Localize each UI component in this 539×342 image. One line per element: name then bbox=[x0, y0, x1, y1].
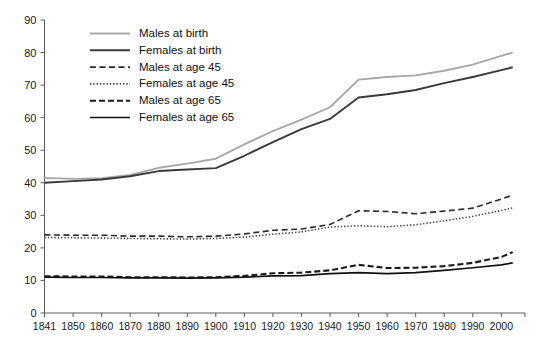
x-axis-tick-label: 1860 bbox=[90, 320, 114, 332]
life-expectancy-line-chart: 0102030405060708090 18411850186018701880… bbox=[0, 0, 539, 342]
legend-item-females-at-birth[interactable]: Females at birth bbox=[90, 44, 221, 56]
x-axis-tick-label: 1980 bbox=[433, 320, 457, 332]
y-axis-tick-label: 30 bbox=[24, 209, 36, 221]
x-axis-tick-label: 1950 bbox=[347, 320, 371, 332]
x-axis-tick-label: 1960 bbox=[375, 320, 399, 332]
legend-item-females-at-age-65[interactable]: Females at age 65 bbox=[90, 111, 234, 123]
x-axis-tick-label: 1970 bbox=[404, 320, 428, 332]
y-axis-tick-label: 70 bbox=[24, 79, 36, 91]
series-line-females-at-age-45 bbox=[45, 208, 513, 239]
x-axis-tick-label: 1990 bbox=[461, 320, 485, 332]
x-axis-tick-label: 1900 bbox=[204, 320, 228, 332]
x-axis-tick-label: 1930 bbox=[290, 320, 314, 332]
x-axis-tick-label: 1910 bbox=[233, 320, 257, 332]
y-axis-tick-label: 90 bbox=[24, 14, 36, 26]
legend-item-label: Males at age 65 bbox=[139, 94, 221, 106]
series-line-males-at-birth bbox=[45, 53, 513, 179]
y-axis-tick-label: 60 bbox=[24, 112, 36, 124]
series-line-males-at-age-45 bbox=[45, 195, 513, 237]
chart-legend: Males at birthFemales at birthMales at a… bbox=[90, 27, 234, 123]
y-axis-tick-label: 10 bbox=[24, 274, 36, 286]
x-axis: 1841185018601870188018901900191019201930… bbox=[33, 313, 525, 332]
series-line-females-at-birth bbox=[45, 67, 513, 183]
y-axis-tick-label: 50 bbox=[24, 144, 36, 156]
legend-item-females-at-age-45[interactable]: Females at age 45 bbox=[90, 77, 234, 89]
legend-item-label: Females at age 65 bbox=[139, 111, 234, 123]
x-axis-tick-label: 1920 bbox=[261, 320, 285, 332]
legend-item-label: Males at birth bbox=[139, 27, 208, 39]
data-series-group bbox=[45, 53, 513, 279]
legend-item-label: Females at birth bbox=[139, 44, 221, 56]
x-axis-tick-label: 1870 bbox=[118, 320, 142, 332]
series-line-females-at-age-65 bbox=[45, 263, 513, 278]
legend-item-label: Females at age 45 bbox=[139, 77, 234, 89]
x-axis-tick-label: 1890 bbox=[176, 320, 200, 332]
legend-item-males-at-birth[interactable]: Males at birth bbox=[90, 27, 208, 39]
x-axis-tick-label: 1850 bbox=[61, 320, 85, 332]
chart-canvas: 0102030405060708090 18411850186018701880… bbox=[0, 0, 539, 342]
legend-item-label: Males at age 45 bbox=[139, 61, 221, 73]
legend-item-males-at-age-45[interactable]: Males at age 45 bbox=[90, 61, 221, 73]
y-axis-tick-label: 80 bbox=[24, 47, 36, 59]
series-line-males-at-age-65 bbox=[45, 252, 513, 277]
y-axis-tick-label: 20 bbox=[24, 242, 36, 254]
y-axis-tick-label: 40 bbox=[24, 177, 36, 189]
x-axis-tick-label: 2000 bbox=[490, 320, 514, 332]
legend-item-males-at-age-65[interactable]: Males at age 65 bbox=[90, 94, 221, 106]
y-axis-tick-label: 0 bbox=[30, 307, 36, 319]
x-axis-tick-label: 1841 bbox=[33, 320, 57, 332]
x-axis-tick-label: 1880 bbox=[147, 320, 171, 332]
y-axis: 0102030405060708090 bbox=[24, 14, 44, 319]
x-axis-tick-label: 1940 bbox=[318, 320, 342, 332]
